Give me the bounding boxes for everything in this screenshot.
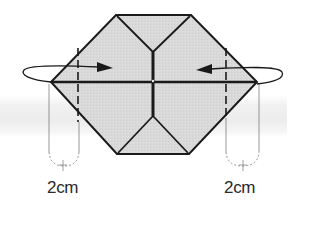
right-measurement-label: 2cm — [224, 178, 255, 198]
left-measurement-label: 2cm — [47, 178, 78, 198]
center-point — [152, 80, 154, 82]
